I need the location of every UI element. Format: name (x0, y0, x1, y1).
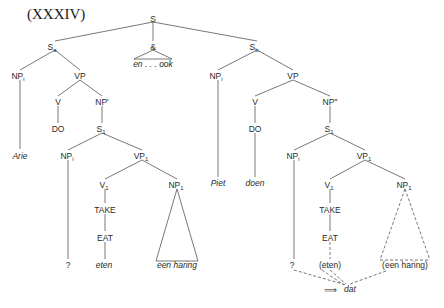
node-NPi2-left: NPi (60, 151, 73, 162)
node-V1-right: V1 (324, 180, 334, 191)
node-VP-left: VP (74, 71, 86, 81)
node-EAT-left: EAT (97, 233, 113, 243)
node-Sa: Sa (47, 42, 57, 53)
node-V-right: V (252, 97, 258, 107)
node-DO-right: DO (249, 124, 262, 134)
leaf-arie: Arie (11, 151, 27, 161)
leaf-question-right: ? (290, 260, 295, 270)
tree-labels: S Sa & en . . . ook Sb NPi VP V NP' DO S… (11, 14, 428, 295)
node-NP1-right: NP1 (396, 180, 412, 191)
node-VP-right: VP (287, 71, 299, 81)
diagram-title: (XXXIV) (27, 6, 85, 23)
node-VP1-right: VP1 (357, 151, 372, 162)
leaf-eten-left: eten (96, 260, 113, 270)
node-V1-left: V1 (99, 180, 109, 191)
node-VP1-left: VP1 (134, 151, 149, 162)
node-TAKE-right: TAKE (319, 205, 341, 215)
node-NPdoubleprime: NP" (323, 97, 338, 107)
leaf-een-haring-left: een haring (157, 260, 197, 270)
node-V-left: V (55, 97, 61, 107)
leaf-question-left: ? (66, 260, 71, 270)
leaf-en-ook: en . . . ook (133, 59, 173, 69)
node-S1-right: S1 (324, 124, 334, 135)
node-NPi2-right: NPi (286, 151, 299, 162)
node-S: S (150, 14, 156, 24)
node-NPi-right: NPi (209, 71, 222, 82)
node-TAKE-left: TAKE (94, 205, 116, 215)
tree-edges (20, 22, 430, 285)
node-NPi-left: NPi (11, 71, 24, 82)
leaf-een-haring-right: (een haring) (382, 260, 428, 270)
node-NP1-left: NP1 (168, 180, 184, 191)
leaf-dat: dat (344, 284, 356, 294)
node-ampersand: & (150, 42, 156, 52)
node-DO-left: DO (52, 124, 65, 134)
node-S1-left: S1 (96, 124, 106, 135)
leaf-eten-right: (eten) (319, 260, 341, 270)
leaf-piet: Piet (211, 178, 226, 188)
implies-arrow-icon: ⟹ (324, 285, 337, 295)
node-EAT-right: EAT (322, 233, 338, 243)
syntax-tree-diagram: (XXXIV) (0, 0, 444, 308)
node-Sb: Sb (249, 42, 259, 53)
node-NPprime: NP' (95, 97, 109, 107)
leaf-doen: doen (246, 178, 265, 188)
